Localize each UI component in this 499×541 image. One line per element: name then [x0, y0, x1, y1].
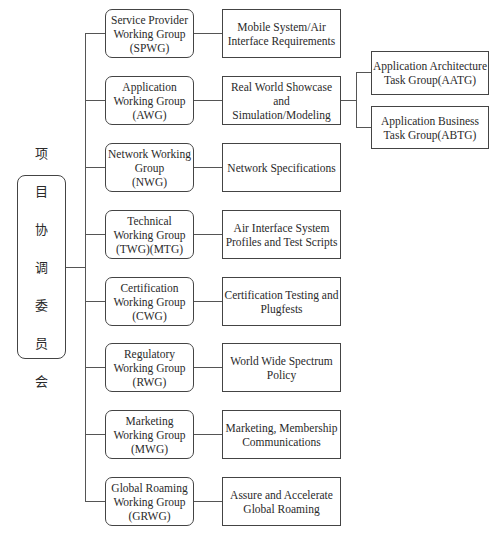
working-group-box: Service Provider Working Group (SPWG): [105, 9, 194, 58]
working-group-box: Marketing Working Group (MWG): [105, 410, 194, 459]
sub-connector-aatg: [356, 72, 371, 73]
trunk-line: [85, 33, 86, 501]
task-connector: [194, 100, 222, 101]
branch-connector: [85, 301, 105, 302]
root-committee-label: 项 目 协 调 委 员 会: [35, 125, 48, 410]
working-group-box: Technical Working Group (TWG)(MTG): [105, 210, 194, 259]
task-box: Air Interface System Profiles and Test S…: [222, 210, 341, 259]
subgroup-aatg-box: Application Architecture Task Group(AATG…: [371, 51, 489, 95]
task-connector: [194, 367, 222, 368]
working-group-box: Regulatory Working Group (RWG): [105, 343, 194, 392]
branch-connector: [85, 367, 105, 368]
root-committee-box: 项 目 协 调 委 员 会: [17, 175, 66, 359]
sub-connector-abtg: [356, 127, 371, 128]
branch-connector: [85, 100, 105, 101]
task-box: Mobile System/Air Interface Requirements: [222, 9, 341, 58]
task-box: Assure and Accelerate Global Roaming: [222, 477, 341, 526]
task-box: Marketing, Membership Communications: [222, 410, 341, 459]
task-box: Certification Testing and Plugfests: [222, 277, 341, 326]
branch-connector: [85, 234, 105, 235]
task-connector: [194, 301, 222, 302]
branch-connector: [85, 434, 105, 435]
branch-connector: [85, 167, 105, 168]
working-group-box: Network Working Group (NWG): [105, 143, 194, 192]
task-box: Real World Showcase and Simulation/Model…: [222, 76, 341, 125]
task-connector: [194, 501, 222, 502]
root-connector: [66, 267, 85, 268]
sub-connector-h: [341, 100, 356, 101]
subgroup-abtg-box: Application Business Task Group(ABTG): [371, 106, 489, 149]
sub-connector-v: [356, 72, 357, 127]
working-group-box: Certification Working Group (CWG): [105, 277, 194, 326]
task-connector: [194, 234, 222, 235]
working-group-box: Application Working Group (AWG): [105, 76, 194, 125]
branch-connector: [85, 33, 105, 34]
task-box: World Wide Spectrum Policy: [222, 343, 341, 392]
task-connector: [194, 167, 222, 168]
working-group-box: Global Roaming Working Group (GRWG): [105, 477, 194, 526]
task-box: Network Specifications: [222, 143, 341, 192]
task-connector: [194, 33, 222, 34]
branch-connector: [85, 501, 105, 502]
task-connector: [194, 434, 222, 435]
